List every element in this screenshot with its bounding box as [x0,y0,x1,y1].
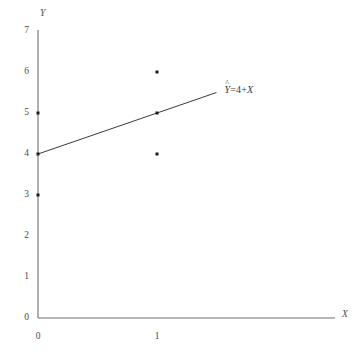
y-axis-tick-label: 3 [11,190,29,200]
predictor-variable: X [247,84,253,95]
y-axis-tick-label: 5 [11,108,29,118]
y-axis-tick-label: 2 [11,231,29,241]
response-var-with-hat: ^Y [224,85,230,96]
plot-canvas [0,0,361,361]
hat-icon: ^ [225,80,229,88]
data-point [156,71,159,74]
data-point [156,112,159,115]
data-point [37,194,40,197]
y-axis-tick-label: 0 [11,313,29,323]
x-axis-title: X [342,310,348,320]
regression-scatter-figure: 01234567 01 Y X ^Y=4+X [0,0,361,361]
regression-equation-label: ^Y=4+X [224,85,253,96]
y-axis-title: Y [40,9,45,19]
regression-line [38,93,217,155]
data-point [37,112,40,115]
y-axis-tick-label: 4 [11,149,29,159]
regression-line-segment [38,93,217,155]
data-point [37,153,40,156]
data-point [156,153,159,156]
y-axis-tick-label: 7 [11,26,29,36]
y-axis-tick-label: 1 [11,272,29,282]
axes-group [38,30,335,318]
x-axis-tick-label: 0 [28,332,48,342]
y-axis-tick-label: 6 [11,67,29,77]
x-axis-tick-label: 1 [147,332,167,342]
